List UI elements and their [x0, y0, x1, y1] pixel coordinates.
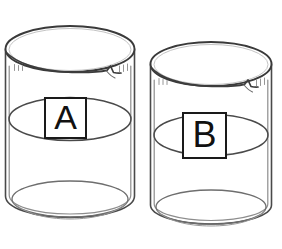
beaker-b-label-box: B	[182, 112, 227, 159]
beaker-a-label-text: A	[54, 100, 77, 134]
beaker-a-rim-ellipse	[6, 26, 135, 72]
beaker-b-label-text: B	[192, 117, 216, 153]
beaker-illustration	[0, 0, 282, 249]
beaker-diagram: A B	[0, 0, 282, 249]
beaker-a-label-box: A	[44, 97, 87, 139]
